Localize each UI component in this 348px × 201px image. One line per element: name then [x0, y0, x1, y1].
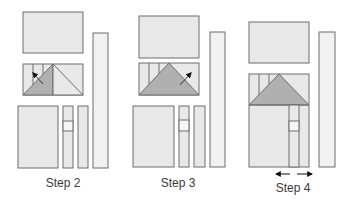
door-window [289, 121, 299, 131]
step-2-diagram [18, 12, 108, 168]
top-rectangle [23, 12, 83, 53]
door-strip [63, 106, 73, 168]
door-strip [179, 106, 189, 167]
step-4-label: Step 4 [263, 181, 323, 195]
tall-side-strip [319, 32, 335, 167]
tall-side-strip [210, 32, 225, 167]
top-rectangle [139, 16, 199, 58]
narrow-strip [78, 106, 88, 168]
step-4-diagram [249, 22, 335, 174]
bottom-large-rectangle [133, 106, 174, 167]
step-3-label: Step 3 [148, 176, 208, 190]
roof-unit [139, 63, 199, 95]
step-3-diagram [133, 16, 225, 167]
step-2-label: Step 2 [33, 176, 93, 190]
top-rectangle [249, 22, 309, 63]
quilt-block-diagram [0, 0, 348, 201]
house-block [249, 74, 309, 167]
tall-side-strip [93, 33, 108, 168]
door-strip [289, 105, 299, 167]
narrow-strip [194, 106, 205, 167]
bottom-large-rectangle [18, 106, 58, 168]
roof-unit [23, 64, 83, 95]
